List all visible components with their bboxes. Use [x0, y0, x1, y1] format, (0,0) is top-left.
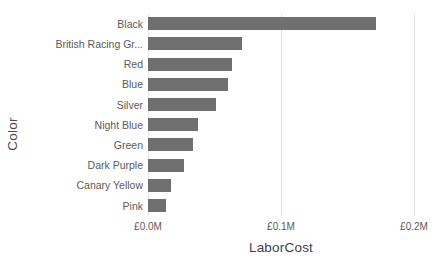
bar-chart: Color BlackBritish Racing Gr...RedBlueSi…	[0, 0, 442, 268]
gridline-2	[414, 14, 415, 216]
category-label: Night Blue	[0, 119, 143, 131]
category-label: Canary Yellow	[0, 179, 143, 191]
bar[interactable]	[148, 199, 166, 212]
category-label: Dark Purple	[0, 159, 143, 171]
bar[interactable]	[148, 98, 216, 111]
bar[interactable]	[148, 37, 242, 50]
bar[interactable]	[148, 179, 171, 192]
bar[interactable]	[148, 159, 184, 172]
bar[interactable]	[148, 138, 193, 151]
bar[interactable]	[148, 17, 376, 30]
bar[interactable]	[148, 58, 232, 71]
y-axis-category-labels: BlackBritish Racing Gr...RedBlueSilverNi…	[0, 14, 143, 216]
category-label: Blue	[0, 78, 143, 90]
bar[interactable]	[148, 78, 228, 91]
x-axis-title: LaborCost	[148, 240, 414, 255]
x-tick-label: £0.2M	[400, 221, 428, 232]
x-tick-label: £0.1M	[267, 221, 295, 232]
category-label: Silver	[0, 99, 143, 111]
plot-area	[148, 14, 414, 216]
category-label: Pink	[0, 200, 143, 212]
category-label: Red	[0, 58, 143, 70]
category-label: British Racing Gr...	[0, 38, 143, 50]
bar[interactable]	[148, 118, 198, 131]
category-label: Green	[0, 139, 143, 151]
category-label: Black	[0, 18, 143, 30]
x-axis-tick-labels: £0.0M£0.1M£0.2M	[0, 221, 442, 237]
x-tick-label: £0.0M	[134, 221, 162, 232]
gridline-1	[281, 14, 282, 216]
